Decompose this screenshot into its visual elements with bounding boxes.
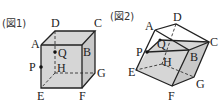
label-G: G bbox=[196, 77, 205, 91]
diagram-canvas: (図1) D C A B Q P H G E F (図2) bbox=[0, 0, 223, 110]
figure-2-caption: (図2) bbox=[110, 11, 134, 22]
label-Q: Q bbox=[157, 37, 166, 51]
label-F: F bbox=[168, 89, 175, 103]
label-E: E bbox=[37, 89, 44, 103]
label-C: C bbox=[94, 16, 102, 30]
point-P bbox=[39, 65, 43, 69]
label-P: P bbox=[29, 60, 36, 74]
figure-1: (図1) D C A B Q P H G E F bbox=[2, 16, 106, 103]
label-C: C bbox=[210, 35, 218, 49]
label-B: B bbox=[83, 45, 91, 59]
point-P bbox=[145, 50, 149, 54]
figure-2: (図2) A D C B P Q H E G F bbox=[110, 10, 218, 103]
label-H: H bbox=[163, 55, 172, 69]
label-A: A bbox=[31, 37, 40, 51]
label-H: H bbox=[57, 61, 66, 75]
label-A: A bbox=[145, 19, 154, 33]
label-G: G bbox=[97, 66, 106, 80]
label-D: D bbox=[51, 16, 60, 30]
label-Q: Q bbox=[58, 46, 67, 60]
label-D: D bbox=[173, 10, 182, 24]
label-F: F bbox=[79, 89, 86, 103]
label-E: E bbox=[128, 65, 135, 79]
label-P: P bbox=[136, 45, 143, 59]
figure-1-caption: (図1) bbox=[2, 18, 26, 29]
point-Q bbox=[53, 50, 57, 54]
label-B: B bbox=[190, 50, 198, 64]
